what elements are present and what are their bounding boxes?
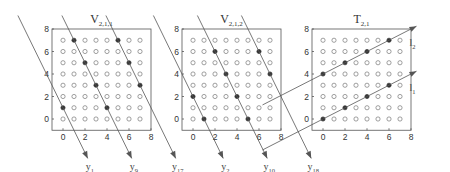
lattice-point	[398, 106, 402, 110]
lattice-point	[246, 49, 250, 53]
guide-line-label: y1	[86, 161, 94, 172]
lattice-point	[343, 49, 347, 53]
lattice-point	[354, 49, 358, 53]
lattice-point	[213, 38, 217, 42]
lattice-point	[387, 72, 391, 76]
y-tick-label: 4	[174, 69, 179, 79]
lattice-point	[224, 117, 228, 121]
lattice-point	[105, 38, 109, 42]
lattice-point	[268, 106, 272, 110]
lattice-point	[376, 38, 380, 42]
x-tick-label: 4	[365, 132, 370, 142]
arrow-head-icon	[126, 151, 132, 159]
lattice-point	[191, 49, 195, 53]
guide-line	[241, 16, 311, 159]
panel-title-sub: 2,1,2	[229, 20, 244, 28]
panel-v211: V2,1,10246802468	[44, 12, 153, 142]
guide-line	[197, 16, 267, 159]
guide-line-label: y2	[221, 161, 229, 172]
y-tick-label: 2	[174, 92, 179, 102]
panel-title: T2,1	[353, 12, 370, 28]
lattice-point	[213, 106, 217, 110]
lattice-point	[354, 72, 358, 76]
guide-line-label-sub: 10	[269, 167, 276, 172]
lattice-point	[224, 61, 228, 65]
lattice-point	[332, 72, 336, 76]
lattice-point	[191, 117, 195, 121]
lattice-point	[72, 94, 76, 98]
panel-title-main: V	[90, 12, 99, 26]
x-tick-label: 0	[191, 132, 196, 142]
guide-line-label-sub: 17	[177, 167, 184, 172]
lattice-point	[116, 117, 120, 121]
lattice-point	[398, 117, 402, 121]
lattice-point	[213, 61, 217, 65]
lattice-point	[235, 106, 239, 110]
x-tick-label: 6	[387, 132, 392, 142]
lattice-point	[105, 49, 109, 53]
lattice-point	[83, 72, 87, 76]
lattice-point	[268, 49, 272, 53]
y-tick-label: 6	[44, 47, 49, 57]
arrow-head-icon	[262, 151, 268, 159]
lattice-point	[376, 49, 380, 53]
lattice-point	[83, 106, 87, 110]
lattice-point	[61, 61, 65, 65]
lattice-point	[246, 83, 250, 87]
lattice-point	[365, 61, 369, 65]
y-tick-label: 2	[44, 92, 49, 102]
lattice-point	[332, 49, 336, 53]
lattice-point	[257, 61, 261, 65]
lattice-point	[138, 49, 142, 53]
x-tick-label: 8	[149, 132, 154, 142]
lattice-point	[321, 38, 325, 42]
lattice-point	[61, 38, 65, 42]
lattice-point	[354, 83, 358, 87]
lattice-point	[235, 38, 239, 42]
lattice-point	[332, 83, 336, 87]
lattice-point	[365, 72, 369, 76]
lattice-point	[191, 106, 195, 110]
guide-line-label-sub: 2	[412, 43, 415, 50]
x-tick-label: 2	[83, 132, 88, 142]
lattice-point	[83, 83, 87, 87]
lattice-point	[332, 61, 336, 65]
y-tick-label: 6	[174, 47, 179, 57]
lattice-point	[61, 72, 65, 76]
x-tick-label: 4	[105, 132, 110, 142]
lattice-point	[116, 72, 120, 76]
y-tick-label: 0	[44, 114, 49, 124]
lattice-point	[116, 61, 120, 65]
lattice-point	[94, 38, 98, 42]
panel-title: V2,1,1	[90, 12, 113, 28]
lattice-point	[127, 72, 131, 76]
lattice-point	[365, 106, 369, 110]
lattice-point	[138, 117, 142, 121]
y-tick-label: 6	[304, 47, 309, 57]
lattice-point	[376, 61, 380, 65]
plot-frame	[312, 29, 411, 130]
guide-line	[263, 26, 417, 105]
guide-line	[18, 16, 88, 159]
lattice-point	[343, 38, 347, 42]
lattice-point	[398, 94, 402, 98]
guide-line-label-sub: 9	[135, 167, 138, 172]
lattice-point	[354, 106, 358, 110]
x-tick-label: 4	[235, 132, 240, 142]
lattice-point	[224, 49, 228, 53]
arrow-head-icon	[409, 26, 417, 32]
lattice-point	[257, 94, 261, 98]
x-tick-label: 6	[257, 132, 262, 142]
lattice-point	[246, 38, 250, 42]
lattice-point	[257, 38, 261, 42]
lattice-point	[257, 106, 261, 110]
lattice-point	[61, 83, 65, 87]
guide-line-label-sub: 1	[91, 167, 94, 172]
lattice-point	[202, 49, 206, 53]
lattice-point	[83, 94, 87, 98]
lattice-point	[202, 106, 206, 110]
lattice-point	[376, 72, 380, 76]
panel-title: V2,1,2	[220, 12, 243, 28]
lattice-point	[332, 106, 336, 110]
guide-line-label-sub: 18	[313, 167, 320, 172]
